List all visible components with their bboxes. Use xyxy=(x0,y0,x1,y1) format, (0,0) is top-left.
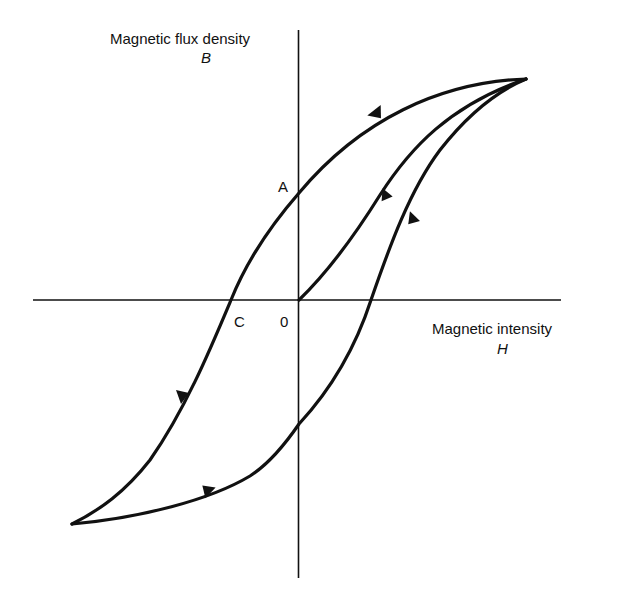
y-axis-symbol: B xyxy=(201,49,211,66)
arrow-icon-descending-top xyxy=(366,105,383,120)
origin-label: 0 xyxy=(280,313,288,330)
point-a-label: A xyxy=(278,178,288,195)
hysteresis-diagram xyxy=(0,0,623,596)
x-axis-label: Magnetic intensity xyxy=(432,320,552,337)
initial-magnetisation-curve xyxy=(299,79,526,300)
y-axis-label: Magnetic flux density xyxy=(110,30,250,47)
x-axis-symbol: H xyxy=(497,340,508,357)
point-c-label: C xyxy=(234,313,245,330)
